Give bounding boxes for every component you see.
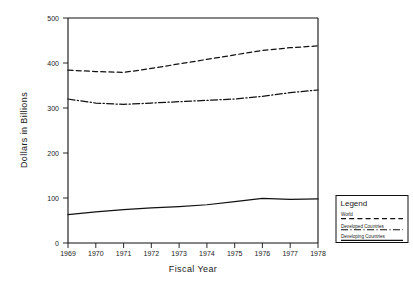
y-axis-ticks [63, 18, 68, 243]
x-tick-label-1976: 1976 [255, 250, 271, 257]
y-tick-label-400: 400 [47, 60, 59, 67]
x-tick-label-1969: 1969 [60, 250, 76, 257]
x-tick-label-1975: 1975 [227, 250, 243, 257]
legend-label-developed-countries: Developed Countries [341, 224, 385, 229]
y-axis-tick-labels: 0 100 200 300 400 500 [47, 15, 59, 247]
x-tick-label-1977: 1977 [282, 250, 298, 257]
y-axis-title: Dollars in Billions [19, 92, 29, 168]
y-tick-label-0: 0 [55, 240, 59, 247]
y-tick-label-200: 200 [47, 150, 59, 157]
series-line-developed-countries [68, 90, 318, 104]
axis-frame [68, 18, 318, 243]
x-axis-title: Fiscal Year [169, 264, 217, 274]
legend: Legend World Developed Countries Develop… [336, 196, 408, 243]
data-series-group [68, 46, 318, 215]
y-tick-label-300: 300 [47, 105, 59, 112]
y-tick-label-500: 500 [47, 15, 59, 22]
plot-axes [68, 18, 318, 243]
x-tick-label-1974: 1974 [199, 250, 215, 257]
x-tick-label-1978: 1978 [310, 250, 326, 257]
x-axis-ticks [68, 243, 318, 248]
x-axis-tick-labels: 1969 1970 1971 1972 1973 1974 1975 1976 … [60, 250, 326, 257]
line-chart: 0 100 200 300 400 500 Dollars in Billion… [0, 0, 413, 283]
series-line-world [68, 46, 318, 73]
legend-title: Legend [341, 199, 368, 208]
x-tick-label-1970: 1970 [88, 250, 104, 257]
x-tick-label-1973: 1973 [171, 250, 187, 257]
y-tick-label-100: 100 [47, 195, 59, 202]
legend-label-world: World [341, 212, 353, 217]
legend-label-developing-countries: Developing Countries [341, 234, 386, 239]
x-tick-label-1972: 1972 [144, 250, 160, 257]
x-tick-label-1971: 1971 [116, 250, 132, 257]
series-line-developing-countries [68, 198, 318, 214]
